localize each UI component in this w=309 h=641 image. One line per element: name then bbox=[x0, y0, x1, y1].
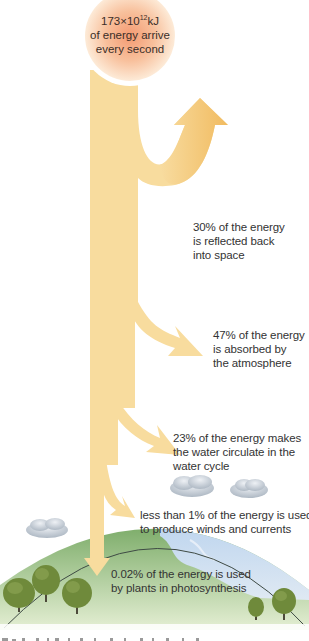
label-line: to produce winds and currents bbox=[140, 522, 309, 536]
cut-off-caption bbox=[0, 636, 309, 641]
power-base: 10 bbox=[127, 15, 140, 27]
label-line: by plants in photosynthesis bbox=[111, 581, 251, 595]
flow-label-water-cycle: 23% of the energy makes the water circul… bbox=[173, 431, 301, 473]
times-sign: × bbox=[120, 15, 127, 27]
flow-label-winds: less than 1% of the energy is used to pr… bbox=[140, 508, 309, 536]
diagram-graphics bbox=[0, 0, 309, 641]
cloud-icon bbox=[26, 518, 68, 538]
energy-beam bbox=[84, 70, 228, 576]
label-line: 47% of the energy bbox=[213, 328, 305, 342]
label-line: the atmosphere bbox=[213, 356, 305, 370]
label-line: 0.02% of the energy is used bbox=[111, 567, 251, 581]
label-line: less than 1% of the energy is used bbox=[140, 508, 309, 522]
unit: kJ bbox=[148, 15, 160, 27]
label-line: into space bbox=[193, 248, 285, 262]
label-line: is absorbed by bbox=[213, 342, 305, 356]
sun-energy-label: 173×1012kJ of energy arrive every second bbox=[80, 14, 180, 56]
label-line: the water circulate in the bbox=[173, 445, 301, 459]
sun-value: 173 bbox=[101, 15, 120, 27]
label-line: 30% of the energy bbox=[193, 220, 285, 234]
sun-label-line2: of energy arrive bbox=[80, 28, 180, 42]
flow-label-atmosphere: 47% of the energy is absorbed by the atm… bbox=[213, 328, 305, 370]
exponent: 12 bbox=[140, 14, 148, 21]
energy-flow-diagram: 173×1012kJ of energy arrive every second… bbox=[0, 0, 309, 641]
flow-label-photosynthesis: 0.02% of the energy is used by plants in… bbox=[111, 567, 251, 595]
label-line: water cycle bbox=[173, 459, 301, 473]
label-line: 23% of the energy makes bbox=[173, 431, 301, 445]
sun-label-line3: every second bbox=[80, 42, 180, 56]
caption-fragment bbox=[0, 636, 309, 641]
cloud-icon bbox=[230, 479, 268, 498]
flow-label-reflected: 30% of the energy is reflected back into… bbox=[193, 220, 285, 262]
cloud-icon bbox=[170, 475, 214, 497]
label-line: is reflected back bbox=[193, 234, 285, 248]
